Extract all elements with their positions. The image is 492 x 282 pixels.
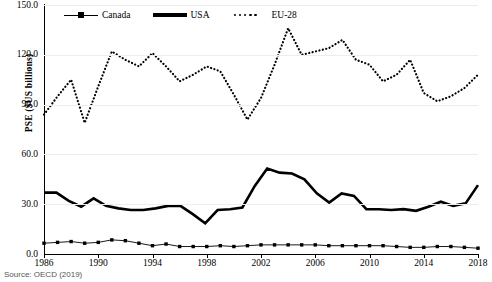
chart-legend: Canada USA EU-28: [64, 8, 297, 22]
data-point-marker: [368, 244, 371, 247]
legend-label-eu28: EU-28: [272, 10, 297, 20]
y-tick-label: 120.0: [0, 50, 38, 59]
gridline: [44, 105, 478, 106]
data-point-marker: [246, 244, 249, 247]
data-point-marker: [463, 246, 466, 249]
x-tick-label: 2018: [456, 259, 492, 268]
series-lines: [44, 5, 478, 254]
data-point-marker: [273, 243, 276, 246]
data-point-marker: [476, 246, 479, 249]
data-point-marker: [286, 243, 289, 246]
gridline: [44, 154, 478, 155]
data-point-marker: [314, 243, 317, 246]
legend-label-canada: Canada: [102, 10, 131, 20]
y-tick-label: 0.0: [0, 250, 38, 259]
gridline: [44, 55, 478, 56]
data-point-marker: [164, 242, 167, 245]
gridline: [44, 204, 478, 205]
data-point-marker: [422, 246, 425, 249]
plot-area: [44, 5, 478, 254]
data-point-marker: [42, 242, 45, 245]
data-point-marker: [219, 244, 222, 247]
y-tick-label: 30.0: [0, 200, 38, 209]
data-point-marker: [83, 242, 86, 245]
data-point-marker: [205, 245, 208, 248]
x-tick-label: 2006: [293, 259, 337, 268]
x-tick-label: 2010: [348, 259, 392, 268]
y-tick-label: 90.0: [0, 100, 38, 109]
data-point-marker: [137, 242, 140, 245]
data-point-marker: [178, 245, 181, 248]
x-tick-label: 2014: [402, 259, 446, 268]
data-point-marker: [151, 244, 154, 247]
data-point-marker: [354, 244, 357, 247]
x-tick-label: 2002: [239, 259, 283, 268]
data-point-marker: [259, 243, 262, 246]
source-note: Source: OECD (2019): [4, 270, 82, 279]
x-tick-label: 1990: [76, 259, 120, 268]
data-point-marker: [381, 244, 384, 247]
data-point-marker: [97, 241, 100, 244]
data-point-marker: [408, 246, 411, 249]
data-point-marker: [191, 245, 194, 248]
data-point-marker: [69, 240, 72, 243]
data-point-marker: [341, 244, 344, 247]
data-point-marker: [395, 245, 398, 248]
data-point-marker: [124, 239, 127, 242]
data-point-marker: [436, 245, 439, 248]
legend-swatch-usa: [153, 10, 187, 20]
series-line-usa: [44, 169, 478, 224]
data-point-marker: [449, 245, 452, 248]
series-line-eu-28: [44, 28, 478, 123]
legend-label-usa: USA: [191, 10, 210, 20]
x-tick-label: 1998: [185, 259, 229, 268]
legend-swatch-eu28: [232, 10, 268, 20]
x-tick-label: 1994: [131, 259, 175, 268]
data-point-marker: [300, 243, 303, 246]
data-point-marker: [56, 241, 59, 244]
legend-item-eu28[interactable]: EU-28: [232, 10, 297, 20]
x-tick-label: 1986: [22, 259, 66, 268]
data-point-marker: [232, 245, 235, 248]
data-point-marker: [327, 244, 330, 247]
legend-item-usa[interactable]: USA: [153, 10, 210, 20]
legend-swatch-canada: [64, 10, 98, 20]
data-point-marker: [110, 238, 113, 241]
y-tick-label: 150.0: [0, 1, 38, 10]
y-tick-label: 60.0: [0, 150, 38, 159]
legend-item-canada[interactable]: Canada: [64, 10, 131, 20]
gridline: [44, 5, 478, 6]
